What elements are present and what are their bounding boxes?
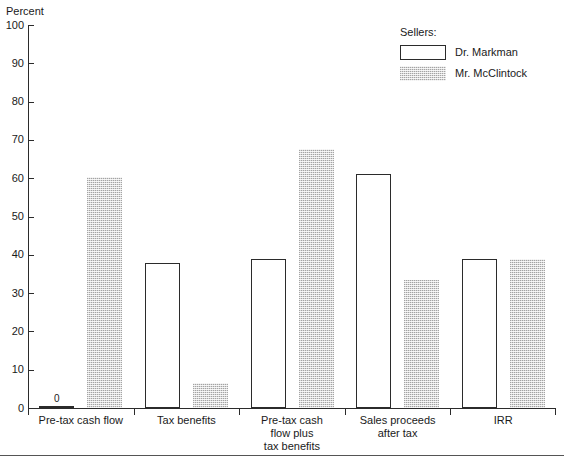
x-axis-category-label: Pre-tax cash flow [28, 414, 134, 427]
y-axis-tick [28, 255, 34, 256]
legend-title: Sellers: [400, 26, 560, 39]
bar-dr-markman [251, 259, 286, 408]
category-label-line: Tax benefits [134, 414, 240, 427]
bar-mr-mcclintock [404, 280, 439, 408]
x-axis-category-label: IRR [450, 414, 556, 427]
category-label-line: Pre-tax cash [239, 414, 345, 427]
legend: Sellers: Dr. Markman Mr. McClintock [400, 26, 560, 85]
legend-entry-mr-mcclintock: Mr. McClintock [400, 64, 560, 83]
category-label-line: after tax [345, 427, 451, 440]
y-axis-tick-label: 30 [12, 288, 24, 299]
y-axis-tick-label: 40 [12, 249, 24, 260]
bar-dr-markman [39, 406, 74, 408]
bar-dr-markman [462, 259, 497, 408]
category-label-line: Pre-tax cash flow [28, 414, 134, 427]
y-axis-tick-label: 50 [12, 211, 24, 222]
y-axis-title: Percent [6, 5, 44, 18]
y-axis-tick [28, 63, 34, 64]
category-label-line: IRR [450, 414, 556, 427]
y-axis-tick [28, 217, 34, 218]
bar-dr-markman [145, 263, 180, 408]
legend-entry-label: Mr. McClintock [455, 67, 527, 80]
bar-mr-mcclintock [193, 383, 228, 408]
x-axis-category-label: Pre-tax cashflow plustax benefits [239, 414, 345, 453]
x-axis-category-labels: Pre-tax cash flowTax benefitsPre-tax cas… [28, 414, 556, 456]
y-axis-tick [28, 140, 34, 141]
hatched-bar-swatch-icon [400, 66, 446, 81]
legend-entry-label: Dr. Markman [455, 46, 518, 59]
y-axis-tick [28, 331, 34, 332]
x-axis-category-label: Tax benefits [134, 414, 240, 427]
y-axis-tick-label: 60 [12, 173, 24, 184]
y-axis-tick [28, 370, 34, 371]
bar-mr-mcclintock [510, 259, 545, 408]
category-label-line: flow plus [239, 427, 345, 440]
outline-bar-swatch-icon [400, 45, 446, 60]
bar-chart: Percent 1009080706050403020100 0 Pre-tax… [0, 0, 564, 459]
y-axis-tick-label: 70 [12, 134, 24, 145]
y-axis-tick [28, 25, 34, 26]
category-label-line: Sales proceeds [345, 414, 451, 427]
y-axis-tick-label: 90 [12, 58, 24, 69]
y-axis-tick-labels: 1009080706050403020100 [0, 25, 24, 408]
y-axis-tick-label: 20 [12, 326, 24, 337]
y-axis-tick [28, 102, 34, 103]
y-axis-tick [28, 178, 34, 179]
category-label-line: tax benefits [239, 440, 345, 453]
y-axis-tick-label: 80 [12, 96, 24, 107]
bar-mr-mcclintock [299, 149, 334, 408]
footer-divider [0, 455, 564, 456]
x-axis-line [28, 408, 556, 409]
y-axis-tick [28, 293, 34, 294]
legend-entry-dr-markman: Dr. Markman [400, 43, 560, 62]
bar-mr-mcclintock [87, 177, 122, 408]
bar-value-label: 0 [39, 394, 74, 404]
y-axis-tick-label: 10 [12, 364, 24, 375]
x-axis-category-label: Sales proceedsafter tax [345, 414, 451, 440]
y-axis-tick-label: 0 [18, 403, 24, 414]
y-axis-tick-label: 100 [6, 20, 24, 31]
bar-dr-markman [356, 174, 391, 408]
